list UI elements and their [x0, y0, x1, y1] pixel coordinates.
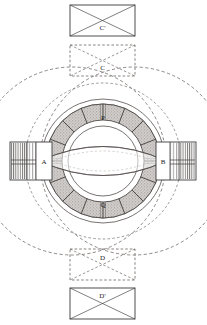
block-b: B [156, 142, 196, 180]
rect-d: D [70, 249, 135, 280]
label-pole-top-inner: C [100, 64, 105, 72]
rect-c-prime: C' [70, 5, 135, 36]
rect-c: C [70, 45, 135, 76]
label-pole-top-outer: C' [100, 24, 106, 32]
toroidal-dynamo-diagram: C' C D D' [0, 0, 207, 325]
label-pole-right: B [161, 158, 166, 166]
rect-d-prime: D' [70, 288, 135, 319]
label-pole-left: A [41, 158, 46, 166]
label-ring-top: P [101, 114, 105, 122]
label-pole-bottom-inner: D [100, 254, 105, 262]
label-pole-bottom-outer: D' [99, 292, 105, 300]
label-ring-bottom: Q [100, 201, 105, 209]
figure-root: C' C D D' [0, 0, 207, 325]
block-a: A [10, 142, 52, 180]
